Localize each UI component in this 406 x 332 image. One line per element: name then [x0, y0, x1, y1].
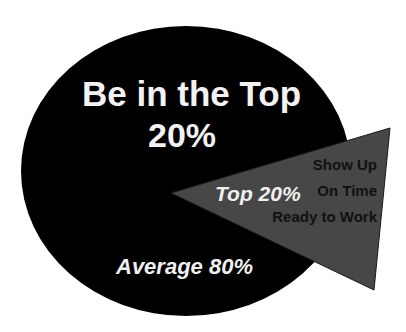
top-slice-label: Top 20%	[215, 183, 301, 204]
title-line-1: Be in the Top	[82, 76, 301, 111]
title-line-2: 20%	[148, 118, 216, 152]
note-ready-to-work: Ready to Work	[272, 209, 377, 224]
note-on-time: On Time	[317, 183, 377, 198]
pie-diagram: Be in the Top 20% Average 80% Top 20% Sh…	[0, 0, 406, 332]
average-slice-label: Average 80%	[116, 256, 253, 278]
note-show-up: Show Up	[313, 157, 377, 172]
